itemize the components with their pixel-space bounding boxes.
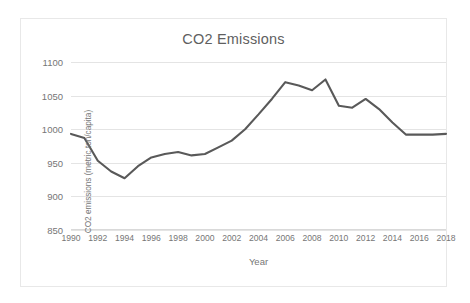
x-axis-tick-labels: 1990199219941996199820002002200420062008… bbox=[71, 233, 446, 249]
y-axis-tick-label: 1100 bbox=[43, 57, 63, 68]
x-axis-tick-label: 1994 bbox=[115, 233, 134, 243]
gridline bbox=[71, 230, 446, 231]
y-axis-tick-labels: 850900950100010501100 bbox=[21, 62, 69, 230]
x-axis-tick-label: 2006 bbox=[276, 233, 295, 243]
y-axis-title: CO2 emissions (metric ton/capita) bbox=[84, 92, 93, 252]
x-axis-title: Year bbox=[71, 256, 446, 267]
x-axis-tick-label: 1996 bbox=[142, 233, 161, 243]
x-axis-tick-label: 2002 bbox=[222, 233, 241, 243]
x-axis-tick-label: 2012 bbox=[356, 233, 375, 243]
y-axis-tick-label: 1050 bbox=[42, 90, 63, 101]
x-axis-tick-label: 2008 bbox=[303, 233, 322, 243]
y-axis-tick-label: 1000 bbox=[42, 124, 63, 135]
chart-container: CO2 Emissions 850900950100010501100 CO2 … bbox=[20, 18, 447, 287]
x-axis-line bbox=[71, 229, 446, 230]
x-axis-tick-label: 2004 bbox=[249, 233, 268, 243]
chart-title: CO2 Emissions bbox=[21, 31, 446, 47]
x-axis-tick-label: 2000 bbox=[195, 233, 214, 243]
co2-emissions-line bbox=[71, 79, 446, 178]
data-series-line bbox=[71, 62, 446, 230]
x-axis-tick-label: 1998 bbox=[169, 233, 188, 243]
y-axis-tick-label: 950 bbox=[47, 157, 63, 168]
x-axis-tick-label: 2010 bbox=[329, 233, 348, 243]
x-axis-tick-label: 1990 bbox=[61, 233, 80, 243]
plot-area: CO2 emissions (metric ton/capita) bbox=[71, 62, 446, 230]
x-axis-tick-label: 2014 bbox=[383, 233, 402, 243]
x-axis-tick-label: 2016 bbox=[410, 233, 429, 243]
x-axis-tick-label: 2018 bbox=[436, 233, 455, 243]
y-axis-tick-label: 900 bbox=[47, 191, 63, 202]
x-axis-tick-label: 1992 bbox=[88, 233, 107, 243]
